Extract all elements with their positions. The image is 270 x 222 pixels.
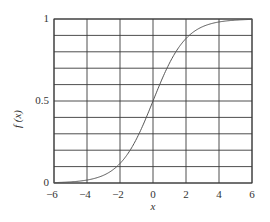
x-axis-label: x [150, 200, 156, 212]
y-tick-label: 0 [44, 176, 50, 188]
y-tick-label: 1 [44, 12, 50, 24]
x-tick-label: −2 [112, 188, 124, 200]
x-tick-label: −4 [79, 188, 91, 200]
x-tick-label: 2 [183, 188, 189, 200]
y-tick-labels: 00.51 [35, 12, 49, 188]
y-axis-label: f (x) [11, 110, 24, 128]
x-tick-label: 6 [249, 188, 255, 200]
sigmoid-chart: −6−4−20246 00.51 x f (x) [0, 0, 270, 222]
x-tick-labels: −6−4−20246 [46, 188, 255, 200]
x-tick-label: 0 [150, 188, 156, 200]
x-tick-label: −6 [46, 188, 58, 200]
x-tick-label: 4 [216, 188, 222, 200]
y-tick-label: 0.5 [35, 94, 49, 106]
